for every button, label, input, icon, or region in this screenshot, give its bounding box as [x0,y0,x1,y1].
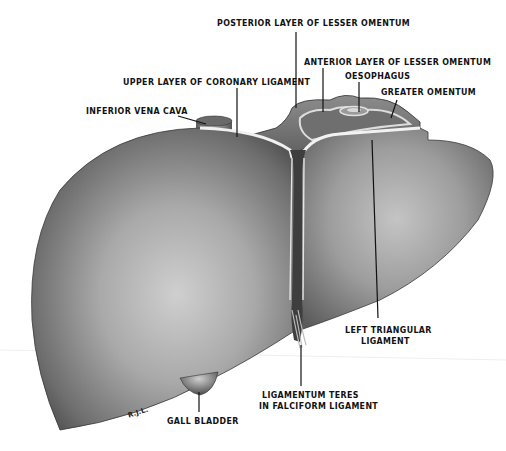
right-lobe [32,128,296,430]
label-posterior-lesser-omentum: POSTERIOR LAYER OF LESSER OMENTUM [217,18,410,29]
label-left-triangular-line2: LIGAMENT [361,336,410,347]
label-greater-omentum: GREATER OMENTUM [381,87,476,98]
label-oesophagus: OESOPHAGUS [345,71,410,82]
label-inferior-vena-cava: INFERIOR VENA CAVA [86,106,188,117]
liver-anatomy-diagram: POSTERIOR LAYER OF LESSER OMENTUM ANTERI… [0,0,506,451]
label-ligamentum-teres-line1: LIGAMENTUM TERES [262,390,359,401]
label-gall-bladder: GALL BLADDER [167,416,239,427]
label-upper-coronary-ligament: UPPER LAYER OF CORONARY LIGAMENT [123,77,310,88]
label-left-triangular-line1: LEFT TRIANGULAR [345,325,432,336]
left-lobe [300,128,493,330]
label-anterior-lesser-omentum: ANTERIOR LAYER OF LESSER OMENTUM [304,57,491,68]
label-ligamentum-teres-line2: IN FALCIFORM LIGAMENT [259,401,378,412]
